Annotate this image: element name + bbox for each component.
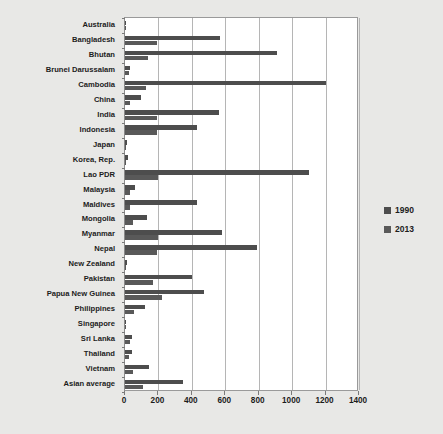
x-axis-tick-label: 1200: [315, 396, 333, 405]
bar-row: [125, 18, 357, 33]
bar-1990: [125, 140, 127, 144]
category-label: Asian average: [64, 379, 116, 388]
bar-1990: [125, 245, 257, 249]
y-axis-tick: [122, 153, 125, 154]
y-axis-tick: [122, 168, 125, 169]
x-axis-tick-label: 400: [184, 396, 198, 405]
plot-area: [124, 17, 358, 391]
chart-legend: 19902013: [384, 205, 440, 243]
y-axis-tick: [122, 63, 125, 64]
x-axis-tick-label: 600: [217, 396, 231, 405]
y-axis-tick: [122, 377, 125, 378]
x-axis-tick-label: 200: [151, 396, 165, 405]
bar-2013: [125, 41, 157, 45]
x-axis-tick: [157, 391, 158, 395]
category-label: Malaysia: [83, 185, 115, 194]
bar-1990: [125, 350, 132, 354]
bar-1990: [125, 200, 197, 204]
category-label: Papua New Guinea: [47, 289, 115, 298]
x-axis-tick-label: 1000: [282, 396, 300, 405]
bar-1990: [125, 66, 130, 70]
category-label: Maldives: [83, 200, 115, 209]
category-label: Vietnam: [86, 364, 115, 373]
category-label: Korea, Rep.: [73, 155, 115, 164]
category-label: Brunei Darussalam: [46, 65, 115, 74]
bar-row: [125, 287, 357, 302]
bar-rows: [125, 18, 357, 390]
y-axis-tick: [122, 362, 125, 363]
category-label: Japan: [93, 140, 115, 149]
category-label: Myanmar: [82, 229, 115, 238]
category-label: Bangladesh: [72, 35, 115, 44]
category-label: Australia: [83, 20, 116, 29]
x-axis-tick: [291, 391, 292, 395]
bar-row: [125, 212, 357, 227]
y-axis-tick: [122, 48, 125, 49]
y-axis-tick: [122, 33, 125, 34]
gridline-1400: [359, 18, 360, 390]
category-label: Sri Lanka: [81, 334, 115, 343]
y-axis-tick: [122, 108, 125, 109]
bar-chart-figure: AustraliaBangladeshBhutanBrunei Darussal…: [0, 0, 443, 434]
bar-2013: [125, 265, 126, 269]
bar-1990: [125, 305, 145, 309]
bar-2013: [125, 340, 130, 344]
bar-2013: [125, 325, 126, 329]
y-axis-tick: [122, 257, 125, 258]
y-axis-tick: [122, 198, 125, 199]
bar-1990: [125, 380, 183, 384]
bar-row: [125, 138, 357, 153]
bar-row: [125, 48, 357, 63]
bar-2013: [125, 250, 157, 254]
bar-row: [125, 347, 357, 362]
bar-2013: [125, 56, 148, 60]
y-axis-tick: [122, 212, 125, 213]
bar-1990: [125, 185, 135, 189]
category-label: Bhutan: [89, 50, 115, 59]
bar-2013: [125, 220, 133, 224]
bar-1990: [125, 155, 128, 159]
bar-2013: [125, 71, 129, 75]
y-axis-tick: [122, 242, 125, 243]
bar-1990: [125, 170, 309, 174]
bar-row: [125, 108, 357, 123]
x-axis-tick: [191, 391, 192, 395]
y-axis-tick: [122, 302, 125, 303]
bar-row: [125, 362, 357, 377]
x-axis-tick-label: 1400: [349, 396, 367, 405]
category-label: New Zealand: [69, 259, 115, 268]
category-label: India: [97, 110, 115, 119]
bar-1990: [125, 290, 204, 294]
legend-label: 2013: [395, 224, 414, 234]
bar-row: [125, 198, 357, 213]
y-axis-tick: [122, 138, 125, 139]
y-axis-tick: [122, 317, 125, 318]
x-axis-tick-label: 800: [251, 396, 265, 405]
bar-row: [125, 123, 357, 138]
bar-row: [125, 332, 357, 347]
bar-row: [125, 168, 357, 183]
bar-1990: [125, 21, 126, 25]
category-label: Singapore: [78, 319, 115, 328]
bar-row: [125, 302, 357, 317]
bar-1990: [125, 275, 192, 279]
bar-row: [125, 317, 357, 332]
bar-2013: [125, 370, 133, 374]
bar-2013: [125, 280, 153, 284]
bar-2013: [125, 235, 158, 239]
y-axis-tick: [122, 287, 125, 288]
bar-1990: [125, 110, 219, 114]
bar-2013: [125, 190, 130, 194]
bar-2013: [125, 101, 130, 105]
bar-2013: [125, 310, 134, 314]
legend-item: 1990: [384, 205, 440, 215]
category-label: Pakistan: [84, 274, 115, 283]
bar-1990: [125, 81, 326, 85]
category-label: China: [94, 95, 115, 104]
category-axis-labels: AustraliaBangladeshBhutanBrunei Darussal…: [0, 17, 120, 391]
x-axis-tick: [258, 391, 259, 395]
x-axis-tick-label: 0: [122, 396, 127, 405]
bar-1990: [125, 365, 149, 369]
bar-1990: [125, 125, 197, 129]
legend-item: 2013: [384, 224, 440, 234]
